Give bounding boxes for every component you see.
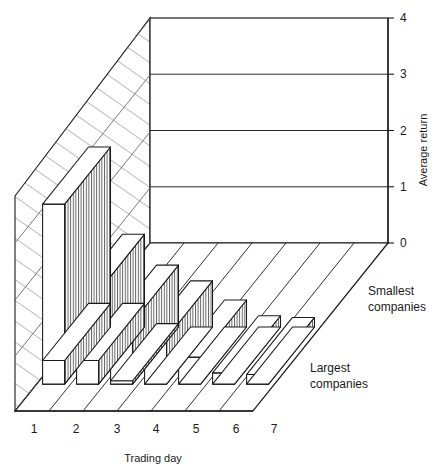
x-tick-label-6: 6: [233, 422, 240, 436]
back-wall: [150, 18, 388, 243]
y-tick-label-2: 2: [400, 124, 407, 138]
legend-largest-line2: companies: [310, 377, 368, 391]
legend-largest-line1: Largest: [310, 361, 351, 375]
x-tick-label-4: 4: [153, 422, 160, 436]
bar-chart-3d: 4 3 2 1 0 Average return 1 2 3 4 5 6 7 T…: [0, 0, 448, 470]
legend-smallest-line2: companies: [368, 300, 426, 314]
x-tick-label-3: 3: [114, 422, 121, 436]
y-axis-title: Average return: [417, 114, 429, 187]
y-tick-label-4: 4: [400, 11, 407, 25]
x-tick-label-1: 1: [31, 422, 38, 436]
x-tick-label-5: 5: [193, 422, 200, 436]
legend-smallest-line1: Smallest: [368, 284, 415, 298]
chart-figure: 4 3 2 1 0 Average return 1 2 3 4 5 6 7 T…: [0, 0, 448, 470]
x-axis-title: Trading day: [124, 452, 182, 464]
y-tick-label-0: 0: [400, 236, 407, 250]
bar-front-face: [43, 361, 65, 385]
y-tick-label-1: 1: [400, 180, 407, 194]
x-tick-label-7: 7: [271, 422, 278, 436]
y-tick-label-3: 3: [400, 67, 407, 81]
x-tick-label-2: 2: [73, 422, 80, 436]
